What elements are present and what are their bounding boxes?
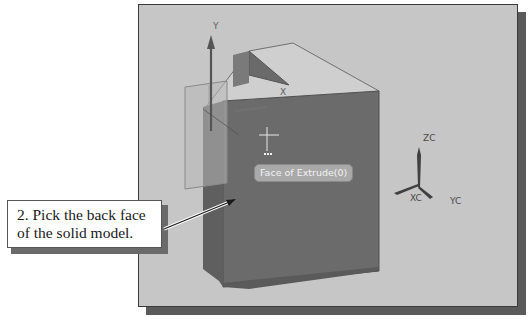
- solid-model-scene[interactable]: [139, 5, 517, 306]
- yc-label: YC: [450, 197, 461, 206]
- selection-tooltip: Face of Extrude(0): [254, 164, 353, 182]
- x-axis-label: X: [280, 88, 286, 97]
- y-axis-label: Y: [213, 22, 219, 31]
- zc-label: ZC: [423, 134, 435, 143]
- instruction-callout: 2. Pick the back face of the solid model…: [7, 200, 162, 248]
- wcs-triad-icon: [394, 147, 433, 199]
- xc-label: XC: [410, 194, 422, 203]
- notch-back-face[interactable]: [233, 51, 249, 87]
- graphics-viewport[interactable]: Y X ZC XC YC: [138, 4, 518, 307]
- callout-line-1: 2. Pick the back face: [17, 206, 161, 224]
- datum-plane[interactable]: [185, 81, 227, 189]
- y-axis-arrowhead-icon: [207, 35, 215, 49]
- front-face[interactable]: [223, 91, 379, 287]
- callout-line-2: of the solid model.: [17, 224, 161, 242]
